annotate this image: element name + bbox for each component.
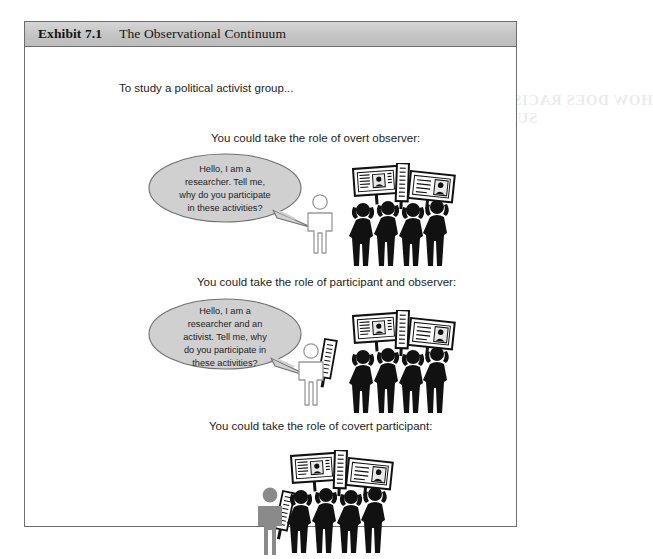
bubble-2-line-3: activist. Tell me, why bbox=[183, 332, 267, 342]
scene-2-heading: You could take the role of participant a… bbox=[197, 276, 456, 288]
intro-text: To study a political activist group... bbox=[119, 82, 294, 94]
bubble-2-line-4: do you participate in bbox=[184, 345, 266, 355]
protester-silhouettes-scene-2 bbox=[349, 347, 449, 413]
bubble-1-line-2: researcher. Tell me, bbox=[185, 177, 265, 187]
scene-3-heading: You could take the role of covert partic… bbox=[209, 420, 432, 432]
exhibit-title: The Observational Continuum bbox=[119, 26, 286, 42]
bubble-1-line-3: why do you participate bbox=[178, 190, 270, 200]
bubble-2-line-1: Hello, I am a bbox=[199, 306, 251, 316]
scene-1-heading: You could take the role of overt observe… bbox=[211, 132, 420, 144]
bubble-1-line-1: Hello, I am a bbox=[199, 164, 251, 174]
exhibit-body: To study a political activist group... Y… bbox=[25, 47, 516, 526]
protester-silhouettes-scene-1 bbox=[349, 200, 449, 266]
exhibit-header: Exhibit 7.1 The Observational Continuum bbox=[25, 22, 516, 47]
protester-crowd-scene-1 bbox=[343, 163, 461, 269]
speech-bubble-participant-observer: Hello, I am a researcher and an activist… bbox=[147, 296, 317, 380]
protester-silhouettes-scene-3 bbox=[287, 487, 387, 553]
exhibit-frame: Exhibit 7.1 The Observational Continuum … bbox=[24, 21, 517, 527]
protester-crowd-scene-3 bbox=[281, 450, 399, 556]
bubble-2-line-5: these activities? bbox=[192, 358, 257, 368]
bubble-1-line-4: in these activities? bbox=[187, 203, 262, 213]
protester-crowd-scene-2 bbox=[343, 310, 461, 416]
researcher-figure-overt-observer bbox=[299, 193, 341, 255]
speech-bubble-overt-observer: Hello, I am a researcher. Tell me, why d… bbox=[147, 152, 317, 230]
exhibit-label: Exhibit 7.1 bbox=[38, 26, 102, 42]
bubble-2-line-2: researcher and an bbox=[188, 319, 263, 329]
